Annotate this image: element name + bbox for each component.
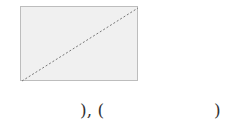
dashed-diagonal-icon	[21, 7, 139, 82]
answer-blank-close: )	[214, 100, 221, 120]
rectangle-with-diagonal	[20, 6, 138, 81]
answer-blank-separator: ), (	[80, 100, 104, 120]
